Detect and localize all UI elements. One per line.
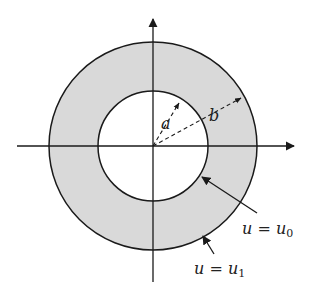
outer-boundary-label: u = u1 bbox=[194, 259, 245, 280]
label-b: b bbox=[209, 106, 219, 125]
inner-boundary-label: u = u0 bbox=[242, 219, 293, 240]
outer-boundary-pointer bbox=[203, 236, 214, 254]
label-a: a bbox=[161, 114, 171, 133]
annulus-diagram: a b u = u0 u = u1 bbox=[0, 0, 319, 290]
